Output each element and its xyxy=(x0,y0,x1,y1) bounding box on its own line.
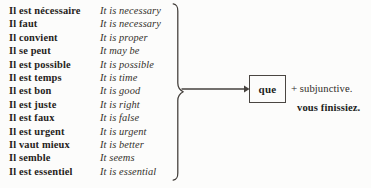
english-translation: It seems xyxy=(100,151,161,164)
table-row: Il est bon It is good xyxy=(9,84,161,97)
english-translation: It is possible xyxy=(100,58,161,71)
table-row: Il est possible It is possible xyxy=(9,58,161,71)
table-row: Il convient It is proper xyxy=(9,31,161,44)
table-row: Il est nécessaire It is necessary xyxy=(9,4,161,17)
french-expression: Il est juste xyxy=(9,98,100,111)
french-expression: Il est faux xyxy=(9,111,100,124)
french-expression: Il faut xyxy=(9,17,100,30)
subjunctive-rule-note: +subjunctive. xyxy=(291,82,353,94)
french-expression: Il est possible xyxy=(9,58,100,71)
french-expression: Il est essentiel xyxy=(9,165,100,178)
french-expression: Il semble xyxy=(9,151,100,164)
french-expression: Il vaut mieux xyxy=(9,138,100,151)
table-row: Il semble It seems xyxy=(9,151,161,164)
english-translation: It may be xyxy=(100,44,161,57)
french-expression: Il est bon xyxy=(9,84,100,97)
table-row: Il vaut mieux It is better xyxy=(9,138,161,151)
grammar-diagram-page: Il est nécessaire It is necessary Il fau… xyxy=(0,0,371,188)
table-row: Il est urgent It is urgent xyxy=(9,125,161,138)
que-label: que xyxy=(258,83,276,95)
french-expression: Il convient xyxy=(9,31,100,44)
english-translation: It is urgent xyxy=(100,125,161,138)
french-expression: Il est urgent xyxy=(9,125,100,138)
english-translation: It is better xyxy=(100,138,161,151)
subjunctive-label: subjunctive. xyxy=(300,83,353,94)
english-translation: It is right xyxy=(100,98,161,111)
english-translation: It is necessary xyxy=(100,4,161,17)
plus-sign: + xyxy=(291,82,300,94)
table-row: Il est faux It is false xyxy=(9,111,161,124)
french-expression: Il est nécessaire xyxy=(9,4,100,17)
conjunction-que-box: que xyxy=(249,75,286,103)
french-expression: Il est temps xyxy=(9,71,100,84)
right-arrow-icon xyxy=(181,82,251,96)
expressions-table: Il est nécessaire It is necessary Il fau… xyxy=(9,4,161,178)
english-translation: It is time xyxy=(100,71,161,84)
table-row: Il est essentiel It is essential xyxy=(9,165,161,178)
english-translation: It is necessary xyxy=(100,17,161,30)
english-translation: It is good xyxy=(100,84,161,97)
example-sentence: vous finissiez. xyxy=(297,102,360,113)
english-translation: It is false xyxy=(100,111,161,124)
table-row: Il se peut It may be xyxy=(9,44,161,57)
french-expression: Il se peut xyxy=(9,44,100,57)
table-row: Il est temps It is time xyxy=(9,71,161,84)
table-row: Il faut It is necessary xyxy=(9,17,161,30)
expressions-table-body: Il est nécessaire It is necessary Il fau… xyxy=(9,4,161,178)
english-translation: It is proper xyxy=(100,31,161,44)
english-translation: It is essential xyxy=(100,165,161,178)
table-row: Il est juste It is right xyxy=(9,98,161,111)
